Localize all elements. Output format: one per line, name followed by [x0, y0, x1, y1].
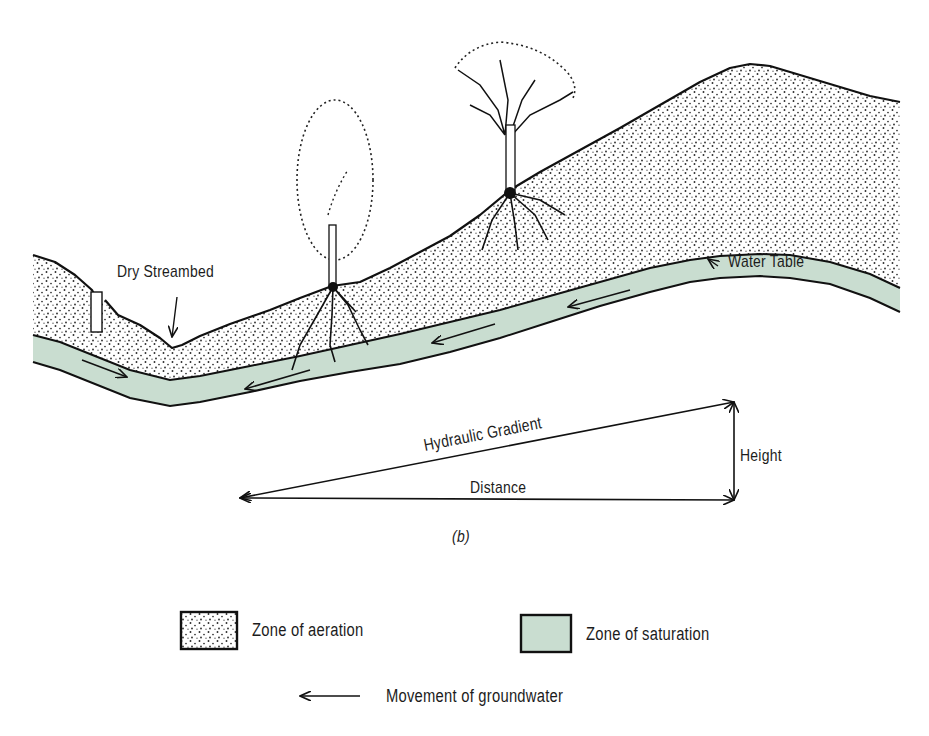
water-table-label: Water Table [728, 252, 804, 272]
legend-swatch-aeration [181, 612, 237, 649]
legend-swatch-saturation [521, 615, 571, 652]
figure-panel-label: (b) [452, 527, 470, 547]
groundwater-cross-section-diagram [0, 0, 929, 736]
dry-streambed-pointer [172, 297, 177, 337]
well-icon [91, 292, 102, 332]
height-label: Height [740, 446, 782, 466]
distance-label: Distance [470, 478, 526, 498]
legend-saturation-label: Zone of saturation [586, 624, 709, 645]
legend-movement-label: Movement of groundwater [386, 686, 563, 707]
dry-streambed-label: Dry Streambed [117, 262, 214, 282]
legend-aeration-label: Zone of aeration [252, 620, 363, 641]
